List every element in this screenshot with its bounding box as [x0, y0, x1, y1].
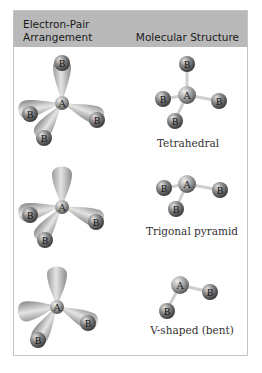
- svg-text:B: B: [94, 116, 101, 126]
- electron-pair-arrangement-row3: A B B: [16, 267, 101, 349]
- svg-text:B: B: [173, 205, 180, 215]
- molecular-structure-trigonal-pyramid: B B B A: [156, 175, 228, 217]
- svg-text:B: B: [93, 218, 100, 228]
- svg-text:B: B: [216, 97, 223, 107]
- caption-v-shaped: V-shaped (bent): [132, 324, 252, 336]
- svg-text:B: B: [184, 60, 191, 70]
- svg-text:B: B: [35, 336, 42, 346]
- svg-text:A: A: [182, 179, 191, 190]
- svg-text:B: B: [27, 211, 34, 221]
- svg-text:B: B: [172, 117, 179, 127]
- vsepr-diagram: A B B B B B B B B A A B: [0, 0, 262, 373]
- svg-text:B: B: [59, 59, 66, 69]
- caption-tetrahedral: Tetrahedral: [128, 137, 248, 149]
- molecular-structure-tetrahedral: B B B B A: [155, 56, 227, 129]
- caption-trigonal-pyramid: Trigonal pyramid: [132, 225, 252, 237]
- electron-pair-arrangement-row1: A B B B B: [17, 55, 107, 146]
- svg-text:B: B: [41, 134, 48, 144]
- electron-pair-arrangement-row2: A B B B: [17, 167, 107, 249]
- svg-text:B: B: [217, 186, 224, 196]
- svg-text:B: B: [164, 307, 171, 317]
- svg-text:B: B: [161, 184, 168, 194]
- svg-text:A: A: [175, 280, 184, 291]
- svg-text:B: B: [42, 236, 49, 246]
- svg-text:A: A: [57, 202, 66, 213]
- svg-text:A: A: [52, 302, 61, 313]
- svg-text:B: B: [160, 95, 167, 105]
- svg-text:B: B: [27, 110, 34, 120]
- svg-text:B: B: [85, 319, 92, 329]
- svg-text:A: A: [57, 98, 66, 109]
- svg-text:A: A: [182, 90, 191, 101]
- molecular-structure-v-shaped: B B A: [159, 276, 218, 319]
- svg-text:B: B: [207, 288, 214, 298]
